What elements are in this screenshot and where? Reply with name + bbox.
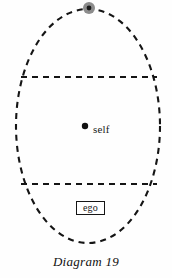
figure-caption: Diagram 19 [0, 254, 172, 269]
self-point-icon [82, 123, 88, 129]
ego-label: ego [83, 203, 98, 213]
diagram-canvas: self ego Diagram 19 [0, 0, 172, 278]
apex-marker-inner-icon [87, 6, 92, 11]
ego-box: ego [76, 201, 105, 215]
diagram-vector-layer [0, 0, 172, 278]
self-label: self [93, 124, 110, 135]
